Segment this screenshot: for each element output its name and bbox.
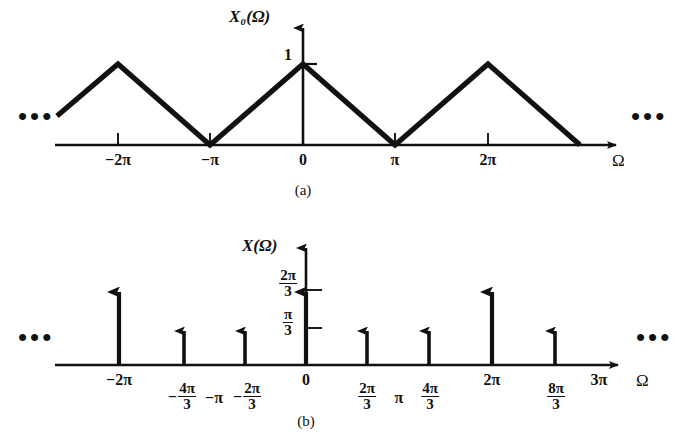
panel-b-x-tick-label-0: 0 [302,372,310,388]
panel-b-x-tick-2pi-3-numerator: 2π [358,381,376,397]
panel-b-x-tick-label--2pi: −2π [106,372,132,388]
panel-a-y-axis-label: X₀(Ω) [229,8,270,25]
panel-b-right-ellipsis: ••• [636,325,672,351]
panel-b-y-tick-2pi-3-numerator: 2π [279,268,297,284]
panel-b-left-ellipsis: ••• [18,325,54,351]
panel-b-y-tick-2pi-3-denominator: 3 [279,284,297,299]
panel-b-x-tick--4pi-3-denominator: 3 [178,397,196,412]
panel-b-y-tick-label-2pi-3: 2π 3 [279,268,297,300]
panel-b-x-tick--2pi-3-denominator: 3 [243,397,261,412]
panel-b-x-tick-8pi-3-denominator: 3 [547,397,565,412]
panel-b-x-tick-label--pi: −π [205,390,223,406]
panel-b-x-tick-label-4pi-3: 4π 3 [421,381,439,413]
panel-a-x-tick-label--2pi: −2π [105,152,131,168]
panel-a-graphics [55,28,616,145]
panel-a-x-axis-label: Ω [612,152,625,169]
panel-b-y-tick-pi-3-denominator: 3 [283,323,293,338]
panel-b-x-tick--2pi-3-numerator: 2π [243,381,261,397]
panel-b-x-tick-label-2pi: 2π [484,372,501,388]
panel-a-right-ellipsis: ••• [631,104,667,130]
panel-a-left-ellipsis: ••• [18,104,54,130]
panel-b-x-tick-label--4pi-3: − 4π 3 [168,381,196,413]
panel-b-x-tick-4pi-3-numerator: 4π [421,381,439,397]
panel-a-triangle-wave [57,64,580,145]
panel-b-x-tick-2pi-3-denominator: 3 [358,397,376,412]
panel-a-caption: (a) [295,183,312,198]
panel-b-x-tick-label-3pi: 3π [591,372,608,388]
panel-a-x-tick-label-pi: π [391,152,400,168]
panel-b-x-axis-label: Ω [636,372,649,389]
panel-b-x-tick--4pi-3-sign: − [168,389,177,405]
panel-a-x-tick-label--pi: −π [201,152,219,168]
panel-b-y-tick-pi-3-numerator: π [283,307,293,323]
panel-b-x-tick-label--2pi-3: − 2π 3 [233,381,261,413]
figure-graphics [0,0,685,438]
panel-b-x-tick-4pi-3-denominator: 3 [421,397,439,412]
panel-b-x-tick-label-2pi-3: 2π 3 [358,381,376,413]
panel-b-x-tick-label-pi: π [395,390,404,406]
panel-b-graphics [55,248,618,365]
panel-a-x-tick-label-0: 0 [299,152,307,168]
panel-b-x-tick-label-8pi-3: 8π 3 [547,381,565,413]
panel-b-y-tick-label-pi-3: π 3 [283,307,293,339]
panel-b-y-axis-label: X(Ω) [242,237,277,254]
panel-b-x-tick--4pi-3-numerator: 4π [178,381,196,397]
panel-a-y-tick-label-1: 1 [284,47,292,63]
panel-b-x-tick--2pi-3-sign: − [233,389,242,405]
panel-a-x-tick-label-2pi: 2π [480,152,497,168]
figure-container: X₀(Ω) Ω 1 −2π −π 0 π 2π ••• ••• (a) X(Ω)… [0,0,685,438]
panel-b-x-tick-8pi-3-numerator: 8π [547,381,565,397]
panel-b-caption: (b) [297,414,315,429]
